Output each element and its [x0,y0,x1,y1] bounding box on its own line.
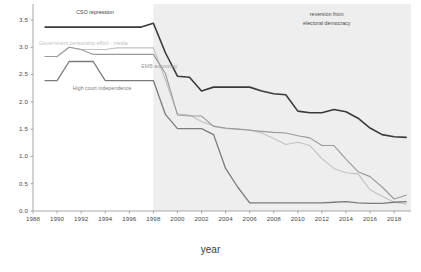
series-label-government-censorship-effort-media: Government censorship effort - media [39,40,128,46]
y-tick-label: 1.0 [2,152,28,159]
y-tick-label: 2.0 [2,98,28,105]
reversion-annotation-line2: electoral democracy [277,19,377,27]
reversion-annotation-line1: reversion from [277,10,377,18]
y-tick-label: 1.5 [2,125,28,132]
reversion-annotation: reversion fromelectoral democracy [277,10,377,26]
series-label-cso-repression: CSO repression [76,9,114,15]
x-tick-label: 2018 [380,215,408,222]
y-tick-label: 0.5 [2,180,28,187]
y-tick-label: 3.0 [2,43,28,50]
series-label-emb-autonomy: EMB autonomy [141,63,177,69]
y-tick-label: 3.5 [2,16,28,23]
y-tick-label: 0.0 [2,207,28,214]
series-label-high-court-independence: High court independence [73,85,132,91]
chart-container: year 0.00.51.01.52.02.53.03.519881990199… [0,0,421,272]
reversion-shaded-region [153,4,411,211]
x-axis-title: year [0,244,421,255]
y-tick-label: 2.5 [2,70,28,77]
